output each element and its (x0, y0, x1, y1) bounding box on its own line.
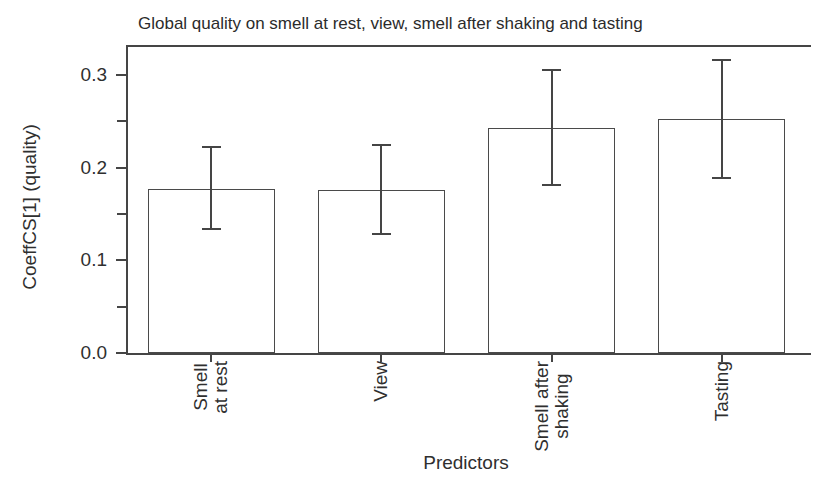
error-bar-cap-bottom (542, 184, 561, 186)
error-bar-cap-bottom (372, 233, 391, 235)
y-tick-label: 0.2 (61, 157, 107, 179)
error-bar-line (210, 147, 212, 229)
error-bar-cap-top (202, 146, 221, 148)
error-bar-line (380, 145, 382, 234)
x-tick-label: Tasting (712, 361, 732, 421)
y-tick-label: 0.1 (61, 249, 107, 271)
chart-title: Global quality on smell at rest, view, s… (138, 14, 643, 34)
error-bar-line (721, 60, 723, 178)
y-axis-major-tick (116, 167, 126, 169)
error-bar-cap-top (542, 69, 561, 71)
y-tick-label: 0.3 (61, 64, 107, 86)
x-tick-label: View (371, 361, 391, 402)
error-bar-cap-bottom (712, 177, 731, 179)
y-axis-major-tick (116, 352, 126, 354)
y-axis-minor-tick (117, 213, 126, 215)
x-tick-label: Smell at rest (191, 361, 231, 414)
error-bar-cap-top (712, 59, 731, 61)
y-axis-major-tick (116, 259, 126, 261)
error-bar-cap-top (372, 144, 391, 146)
error-bar-cap-bottom (202, 228, 221, 230)
y-axis-minor-tick (117, 306, 126, 308)
coefficient-bar-chart: Global quality on smell at rest, view, s… (0, 0, 828, 491)
x-axis-title: Predictors (423, 452, 509, 474)
plot-area (126, 45, 811, 355)
x-tick-label: Smell after shaking (532, 361, 572, 452)
y-tick-label: 0.0 (61, 342, 107, 364)
y-axis-major-tick (116, 74, 126, 76)
error-bar-line (551, 70, 553, 185)
y-axis-minor-tick (117, 120, 126, 122)
y-axis-title: CoeffCS[1] (quality) (19, 124, 41, 289)
